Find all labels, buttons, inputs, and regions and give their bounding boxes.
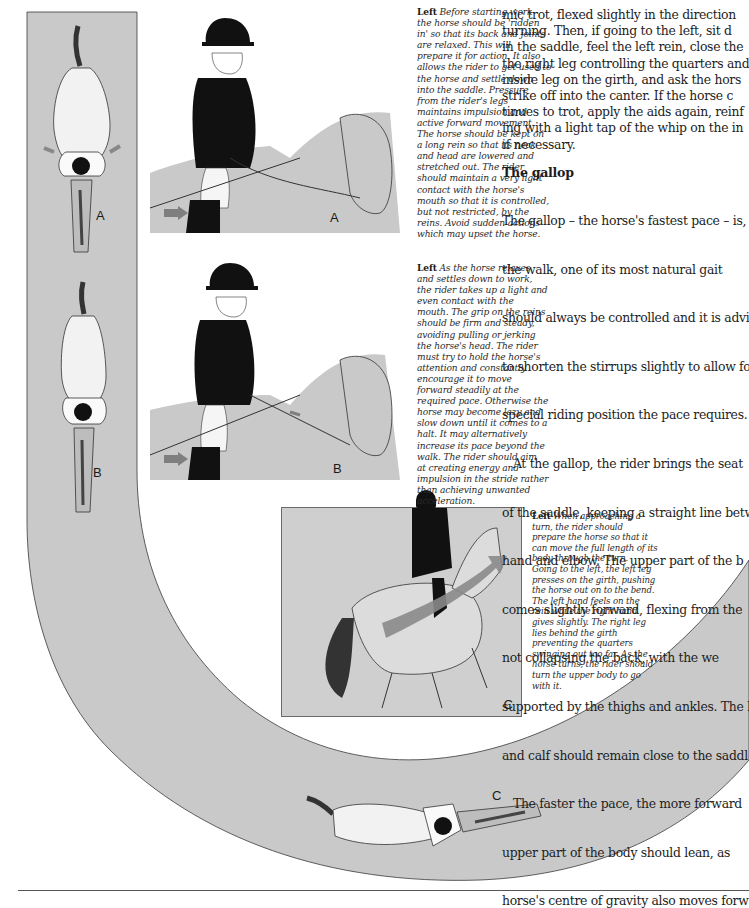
body-line: and calf should remain close to the sadd… (502, 748, 749, 764)
body-line: strike off into the canter. If the horse… (502, 88, 749, 104)
body-line: tinues to trot, apply the aids again, re… (502, 104, 749, 120)
body-line: should always be controlled and it is ad… (502, 310, 749, 326)
caption-b-line: encourage it to move (417, 374, 512, 384)
rider-side-view-a-illustration (150, 8, 400, 233)
body-line: comes slightly forward, flexing from the (502, 602, 749, 618)
body-line: hand and elbow. The upper part of the b (502, 553, 749, 569)
figure-label-topview-c: C (492, 788, 501, 803)
caption-b-line: even contact with the (417, 296, 514, 306)
body-line: mic trot, flexed slightly in the directi… (502, 7, 749, 23)
body-line: not collapsing the back, with the we (502, 650, 749, 666)
body-line: if necessary. (502, 137, 749, 153)
body-line: horse's centre of gravity also moves for… (502, 893, 749, 908)
page-footer-rule (18, 890, 749, 891)
section-heading: The gallop (502, 165, 749, 181)
body-line: ing with a light tap of the whip on the … (502, 120, 749, 136)
body-line: upper part of the body should lean, as (502, 845, 749, 861)
body-line: the right leg controlling the quarters a… (502, 56, 749, 72)
body-line: to shorten the stirrups slightly to allo… (502, 359, 749, 375)
figure-label-topview-b: B (93, 465, 102, 480)
caption-a-line: are relaxed. This will (417, 40, 511, 50)
caption-b-lead: Left (417, 262, 437, 273)
caption-a-lead: Left (417, 6, 437, 17)
turn-illustration-panel: C (281, 507, 522, 717)
body-line: the walk, one of its most natural gait (502, 262, 749, 278)
topview-horse-a-illustration (40, 20, 130, 260)
body-line: supported by the thighs and ankles. The … (502, 699, 749, 715)
rider-side-view-b-illustration (150, 255, 400, 480)
caption-b-line: acceleration. (417, 496, 475, 506)
figure-label-topview-a: A (96, 208, 105, 223)
body-line: inside leg on the girth, and ask the hor… (502, 72, 749, 88)
body-text-column: mic trot, flexed slightly in the directi… (502, 0, 749, 908)
figure-label-side-b: B (333, 461, 342, 476)
body-line: in the saddle, feel the left rein, close… (502, 39, 749, 55)
caption-a-line: from the rider's legs (417, 96, 508, 106)
body-line: turning. Then, if going to the left, sit… (502, 23, 749, 39)
body-line: The gallop – the horse's fastest pace – … (502, 213, 749, 229)
body-line: special riding position the pace require… (502, 407, 749, 423)
body-line: of the saddle, keeping a straight line b… (502, 505, 749, 521)
body-line: The faster the pace, the more forward (502, 796, 749, 812)
figure-label-side-a: A (330, 210, 339, 225)
book-page: A B A B (0, 0, 749, 908)
body-line: At the gallop, the rider brings the seat (502, 456, 749, 472)
rider-turn-c-illustration (282, 508, 521, 716)
topview-horse-b-illustration (50, 280, 130, 520)
